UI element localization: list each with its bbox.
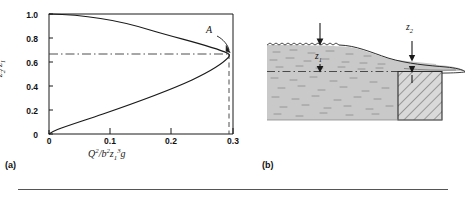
x-tick-label-0_2: 0.2 bbox=[158, 136, 184, 146]
x-tick-label-0: 0 bbox=[36, 136, 62, 146]
flow-diagram-panel-b: z1 z₁ z2 z₂ bbox=[246, 0, 466, 180]
panel-a-caption: (a) bbox=[5, 160, 16, 170]
x-tick-label-0_1: 0.1 bbox=[97, 136, 123, 146]
x-axis-ticks bbox=[49, 128, 233, 134]
bottom-divider-rule bbox=[18, 189, 448, 190]
y-tick-label-0_6: 0.6 bbox=[12, 58, 38, 68]
y-axis-title: z2/z1 z₂/z₁ bbox=[0, 60, 6, 77]
x-axis-title: Q2/b2z13g Q²/b²z₁³g bbox=[88, 147, 126, 161]
x-axis-title-math: Q2/b2z13g bbox=[88, 148, 126, 159]
label-z2-math: z2 bbox=[406, 22, 413, 32]
y-tick-label-1_0: 1.0 bbox=[12, 10, 38, 20]
label-z2: z2 z₂ bbox=[406, 22, 413, 34]
y-axis-ticks bbox=[49, 14, 53, 134]
open-channel-flow-diagram-svg bbox=[246, 0, 466, 160]
free-surface-line bbox=[267, 43, 339, 45]
panel-b-caption: (b) bbox=[262, 160, 274, 170]
y-tick-label-0_4: 0.4 bbox=[12, 82, 38, 92]
channel-step-block bbox=[398, 72, 442, 121]
x-tick-label-0_3: 0.3 bbox=[220, 136, 246, 146]
y-tick-label-0: 0 bbox=[12, 130, 38, 140]
energy-curve bbox=[49, 14, 229, 134]
y-axis-title-math: z2/z1 bbox=[0, 60, 4, 77]
chart-panel-a: 1.0 0.8 0.6 0.4 0.2 0 0 0.1 0.2 0.3 Q2/b… bbox=[0, 0, 246, 180]
label-z1: z1 z₁ bbox=[315, 51, 322, 63]
figure-root: 1.0 0.8 0.6 0.4 0.2 0 0 0.1 0.2 0.3 Q2/b… bbox=[0, 0, 466, 200]
y-tick-label-0_8: 0.8 bbox=[12, 34, 38, 44]
label-z1-math: z1 bbox=[315, 51, 322, 61]
annotation-label-a: A bbox=[206, 24, 212, 35]
y-tick-label-0_2: 0.2 bbox=[12, 106, 38, 116]
